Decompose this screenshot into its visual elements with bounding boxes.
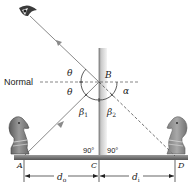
alpha-label: α <box>123 86 129 96</box>
normal-label: Normal <box>4 77 33 87</box>
point-b-label: B <box>104 70 112 80</box>
chess-knight-icon <box>9 117 29 154</box>
point-c-label: C <box>91 161 97 170</box>
mirror <box>99 48 107 156</box>
dimension-lines <box>24 160 175 182</box>
reflected-ray <box>30 16 99 82</box>
object-distance-label: do <box>57 172 67 183</box>
virtual-ray <box>99 82 175 156</box>
object-distance-subscript: o <box>63 176 67 183</box>
image-distance-subscript: i <box>138 176 140 183</box>
image-distance-label: di <box>132 172 140 183</box>
reflection-diagram: Normal B A C D θ θ α β1 β2 90° 90° do di <box>0 0 196 189</box>
theta-upper-label: θ <box>67 68 73 78</box>
point-a-label: A <box>16 161 23 170</box>
base-plate <box>14 155 188 160</box>
eye-icon <box>19 5 37 16</box>
incident-ray <box>24 82 99 156</box>
beta2-subscript: 2 <box>112 111 116 118</box>
point-d-label: D <box>177 161 185 170</box>
beta1-subscript: 1 <box>84 111 88 118</box>
beta2-label: β2 <box>106 107 116 118</box>
chess-knight-image-icon <box>167 117 187 154</box>
theta-lower-label: θ <box>67 87 73 97</box>
angle-left-label: 90° <box>83 146 94 155</box>
beta1-label: β1 <box>78 107 88 118</box>
angle-right-label: 90° <box>107 146 118 155</box>
